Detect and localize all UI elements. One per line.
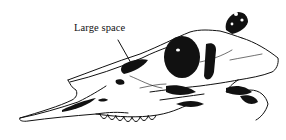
orbit bbox=[164, 36, 200, 78]
snout-outline bbox=[20, 86, 106, 118]
tooth-row bbox=[100, 114, 156, 122]
skull-outline-top bbox=[68, 30, 242, 80]
preorbital-vacuity bbox=[121, 59, 148, 74]
label-large-space: Large space bbox=[74, 22, 125, 33]
antler-burr bbox=[226, 12, 248, 34]
skull-illustration bbox=[0, 0, 286, 140]
skull-figure: Large space bbox=[0, 0, 286, 140]
skull-outline-back bbox=[238, 38, 278, 80]
